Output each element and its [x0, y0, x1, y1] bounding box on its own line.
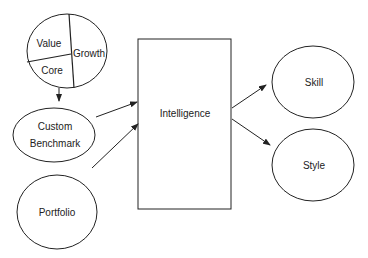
- pie-label-value: Value: [37, 37, 62, 50]
- arrow-intelligence-to-style: [232, 119, 270, 145]
- intelligence-node: [138, 39, 231, 209]
- pie-label-growth: Growth: [73, 47, 105, 60]
- pie-label-core: Core: [41, 64, 63, 77]
- skill-label: Skill: [305, 76, 323, 89]
- benchmark-label-line2: Benchmark: [30, 137, 81, 150]
- arrow-portfolio-to-intelligence: [92, 124, 138, 168]
- custom-benchmark-node: [13, 108, 95, 162]
- benchmark-label-line1: Custom: [38, 120, 72, 133]
- style-label: Style: [303, 159, 325, 172]
- arrow-intelligence-to-skill: [232, 85, 266, 108]
- pie-divider-horizontal: [27, 54, 71, 62]
- arrow-benchmark-to-intelligence: [96, 102, 137, 117]
- intelligence-label: Intelligence: [160, 107, 211, 120]
- portfolio-label: Portfolio: [39, 206, 76, 219]
